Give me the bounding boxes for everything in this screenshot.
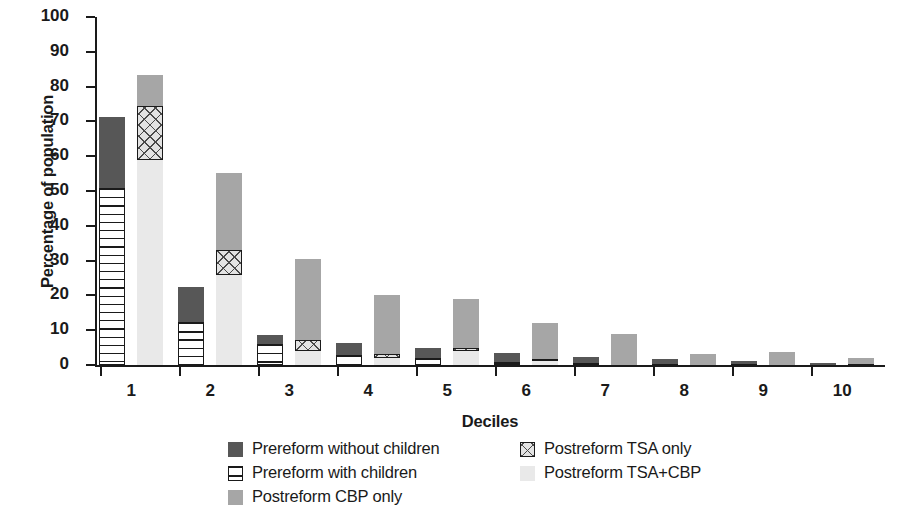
- bar-postreform-decile-5: [453, 299, 479, 365]
- y-tick-label: 30: [9, 250, 69, 270]
- y-tick-label: 100: [9, 6, 69, 26]
- y-tick-label: 0: [9, 354, 69, 374]
- x-tick: [416, 367, 418, 376]
- x-axis-title: Deciles: [95, 412, 885, 431]
- legend-row: Postreform CBP only: [228, 487, 888, 506]
- x-tick: [258, 367, 260, 376]
- segment-pre_with: [494, 362, 520, 365]
- segment-post_tsa_cbp: [137, 160, 163, 365]
- pre-with-children-swatch: [228, 466, 243, 481]
- x-tick-label: 10: [812, 381, 872, 401]
- segment-post_tsa: [374, 354, 400, 359]
- x-tick-label: 3: [259, 381, 319, 401]
- segment-pre_without: [178, 287, 204, 322]
- y-tick: [86, 294, 95, 296]
- postreform-cbp-only-swatch: [228, 490, 243, 505]
- x-tick-label: 1: [101, 381, 161, 401]
- bar-prereform-decile-2: [178, 287, 204, 365]
- bar-postreform-decile-3: [295, 259, 321, 365]
- y-tick-label: 80: [9, 76, 69, 96]
- bar-prereform-decile-5: [415, 348, 441, 365]
- segment-post_tsa_cbp: [216, 275, 242, 365]
- segment-post_cbp: [690, 354, 716, 365]
- bar-prereform-decile-9: [731, 361, 757, 365]
- segment-post_tsa_cbp: [453, 351, 479, 365]
- segment-pre_without: [810, 363, 836, 365]
- segment-post_cbp: [611, 334, 637, 365]
- segment-post_cbp: [769, 352, 795, 365]
- x-tick-label: 2: [180, 381, 240, 401]
- bar-prereform-decile-1: [99, 117, 125, 365]
- segment-post_tsa_cbp: [295, 351, 321, 365]
- segment-post_tsa_cbp: [374, 358, 400, 365]
- x-tick-label: 7: [575, 381, 635, 401]
- bar-postreform-decile-1: [137, 75, 163, 365]
- legend-label: Prereform with children: [252, 463, 417, 482]
- segment-post_cbp: [532, 323, 558, 359]
- y-tick: [86, 329, 95, 331]
- segment-post_cbp: [453, 299, 479, 348]
- bar-prereform-decile-7: [573, 357, 599, 365]
- bar-postreform-decile-9: [769, 352, 795, 365]
- segment-post_tsa: [137, 106, 163, 160]
- x-tick-label: 8: [654, 381, 714, 401]
- segment-pre_without: [494, 353, 520, 362]
- bar-prereform-decile-4: [336, 343, 362, 365]
- x-tick-label: 5: [417, 381, 477, 401]
- segment-pre_without: [573, 357, 599, 362]
- segment-pre_without: [731, 361, 757, 364]
- y-tick-label: 50: [9, 180, 69, 200]
- bar-postreform-decile-2: [216, 173, 242, 365]
- bar-prereform-decile-10: [810, 363, 836, 365]
- postreform-tsa-only-swatch: [520, 442, 535, 457]
- bar-prereform-decile-6: [494, 353, 520, 365]
- segment-post_cbp: [374, 295, 400, 353]
- x-tick: [179, 367, 181, 376]
- segment-post_cbp: [137, 75, 163, 105]
- y-tick: [86, 120, 95, 122]
- y-tick-label: 60: [9, 145, 69, 165]
- legend-label: Postreform CBP only: [252, 487, 402, 506]
- chart-legend: Prereform without children Postreform TS…: [228, 439, 888, 511]
- segment-post_cbp: [216, 173, 242, 251]
- x-tick: [100, 367, 102, 376]
- legend-item-prereform-with-children: Prereform with children: [228, 463, 520, 482]
- x-tick: [811, 367, 813, 376]
- y-tick: [86, 190, 95, 192]
- y-tick-label: 10: [9, 319, 69, 339]
- segment-pre_without: [257, 335, 283, 344]
- segment-post_tsa: [532, 359, 558, 361]
- y-tick-label: 90: [9, 41, 69, 61]
- plot-area: 0102030405060708090100 12345678910 Decil…: [95, 17, 885, 365]
- bar-prereform-decile-3: [257, 335, 283, 365]
- y-tick: [86, 225, 95, 227]
- legend-label: Prereform without children: [252, 439, 439, 458]
- segment-pre_without: [415, 348, 441, 358]
- segment-pre_with: [99, 188, 125, 365]
- pre-without-children-swatch: [228, 442, 243, 457]
- y-tick: [86, 155, 95, 157]
- x-tick: [732, 367, 734, 376]
- segment-pre_with: [573, 363, 599, 365]
- bar-postreform-decile-8: [690, 354, 716, 365]
- legend-row: Prereform with children Postreform TSA+C…: [228, 463, 888, 482]
- legend-label: Postreform TSA+CBP: [544, 463, 701, 482]
- legend-item-postreform-cbp-only: Postreform CBP only: [228, 487, 520, 506]
- segment-post_tsa: [295, 340, 321, 351]
- bar-postreform-decile-10: [848, 358, 874, 365]
- segment-post_tsa: [453, 348, 479, 351]
- x-tick-label: 4: [338, 381, 398, 401]
- segment-pre_with: [415, 358, 441, 365]
- legend-label: Postreform TSA only: [544, 439, 691, 458]
- y-tick-label: 20: [9, 284, 69, 304]
- x-tick-label: 6: [496, 381, 556, 401]
- y-tick: [86, 51, 95, 53]
- y-axis-line: [95, 17, 97, 366]
- segment-post_tsa_cbp: [532, 361, 558, 365]
- postreform-tsa-cbp-swatch: [520, 466, 535, 481]
- bar-postreform-decile-4: [374, 295, 400, 365]
- legend-item-prereform-without-children: Prereform without children: [228, 439, 520, 458]
- segment-post_cbp: [848, 358, 874, 363]
- chart-figure: Percentage of population 010203040506070…: [0, 0, 900, 523]
- y-tick-label: 70: [9, 110, 69, 130]
